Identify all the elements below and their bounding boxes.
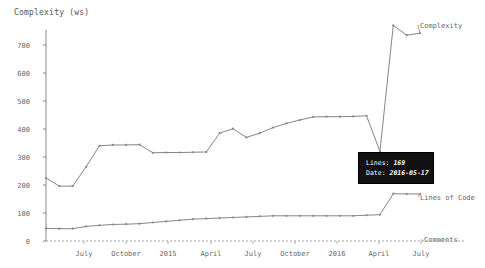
data-point bbox=[245, 216, 247, 218]
data-point bbox=[112, 223, 114, 225]
data-point bbox=[138, 223, 140, 225]
data-point bbox=[85, 225, 87, 227]
complexity-chart: Complexity (ws) 700 600 500 400 300 200 … bbox=[0, 0, 485, 268]
tooltip-lines-key: Lines: bbox=[366, 159, 389, 167]
data-point bbox=[165, 220, 167, 222]
data-point bbox=[259, 215, 261, 217]
data-point bbox=[392, 24, 394, 26]
data-point bbox=[392, 193, 394, 195]
tooltip-date-key: Date: bbox=[366, 169, 386, 177]
data-point bbox=[299, 215, 301, 217]
data-point bbox=[125, 144, 127, 146]
leader-line-complexity bbox=[418, 25, 420, 33]
data-point bbox=[72, 228, 74, 230]
data-point bbox=[325, 116, 327, 118]
data-point bbox=[192, 218, 194, 220]
data-point bbox=[219, 132, 221, 134]
data-point bbox=[312, 215, 314, 217]
data-point bbox=[299, 119, 301, 121]
data-point bbox=[152, 221, 154, 223]
data-point bbox=[325, 215, 327, 217]
series-line-lines-of-code bbox=[46, 194, 420, 229]
data-point bbox=[406, 34, 408, 36]
data-point bbox=[312, 116, 314, 118]
data-point bbox=[379, 214, 381, 216]
data-point bbox=[165, 151, 167, 153]
data-point bbox=[272, 215, 274, 217]
data-point bbox=[339, 116, 341, 118]
data-point bbox=[138, 144, 140, 146]
data-point bbox=[205, 151, 207, 153]
data-point bbox=[58, 228, 60, 230]
data-point bbox=[285, 122, 287, 124]
data-point bbox=[98, 145, 100, 147]
data-point bbox=[365, 214, 367, 216]
data-point bbox=[205, 218, 207, 220]
data-point bbox=[352, 115, 354, 117]
data-point bbox=[232, 216, 234, 218]
data-point bbox=[125, 223, 127, 225]
tooltip-lines-value: 169 bbox=[393, 159, 405, 167]
data-point bbox=[72, 185, 74, 187]
plot-area bbox=[0, 0, 485, 268]
data-point bbox=[192, 151, 194, 153]
data-point bbox=[352, 215, 354, 217]
data-point bbox=[178, 219, 180, 221]
data-point bbox=[45, 177, 47, 179]
data-point bbox=[406, 193, 408, 195]
data-point bbox=[245, 136, 247, 138]
data-point bbox=[45, 227, 47, 229]
data-point bbox=[98, 224, 100, 226]
data-point bbox=[85, 166, 87, 168]
tooltip-date-row: Date: 2016-05-17 bbox=[366, 168, 426, 178]
series-points-lines-of-code bbox=[45, 193, 421, 230]
data-point bbox=[272, 127, 274, 129]
data-point bbox=[178, 151, 180, 153]
data-point bbox=[152, 152, 154, 154]
data-point bbox=[259, 132, 261, 134]
data-point bbox=[58, 185, 60, 187]
data-point bbox=[285, 215, 287, 217]
data-point bbox=[112, 144, 114, 146]
data-tooltip: Lines: 169 Date: 2016-05-17 bbox=[358, 152, 434, 184]
data-point bbox=[219, 217, 221, 219]
data-point bbox=[232, 128, 234, 130]
tooltip-date-value: 2016-05-17 bbox=[390, 169, 429, 177]
data-point bbox=[365, 115, 367, 117]
tooltip-lines-row: Lines: 169 bbox=[366, 158, 426, 168]
data-point bbox=[339, 215, 341, 217]
